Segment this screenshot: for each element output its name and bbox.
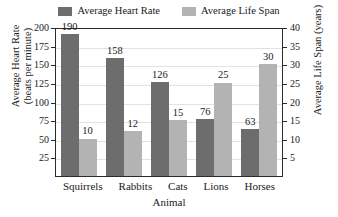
y-axis-left-tick-label: 100 (34, 98, 49, 108)
legend-label-heart-rate: Average Heart Rate (77, 6, 160, 17)
x-axis-category-label: Rabbits (119, 180, 153, 192)
y-axis-right-tick (283, 28, 287, 29)
legend-label-life-span: Average Life Span (201, 6, 280, 17)
bar-group: 19010 (61, 29, 97, 176)
bar-value-label: 10 (82, 126, 93, 139)
bar-life-span: 15 (169, 120, 187, 176)
y-axis-left-tick-label: 50 (39, 135, 49, 145)
y-axis-right-tick-label: 15 (290, 116, 300, 126)
y-axis-right-tick-label: 35 (290, 42, 300, 52)
y-axis-right-tick-label: 40 (290, 23, 300, 33)
y-axis-right-tick-label: 10 (290, 135, 300, 145)
bar-life-span: 12 (124, 131, 142, 176)
y-axis-right-tick (283, 84, 287, 85)
bar-group: 7625 (196, 29, 232, 176)
bar-heart-rate: 158 (106, 58, 124, 176)
bar-value-label: 25 (218, 70, 229, 83)
bar-life-span: 25 (214, 83, 232, 176)
y-axis-left-tick-label: 25 (39, 153, 49, 163)
bar-group: 6330 (241, 29, 277, 176)
bar-heart-rate: 63 (241, 129, 259, 176)
bar-value-label: 30 (263, 52, 274, 65)
x-axis-category-labels: SquirrelsRabbitsCatsLionsHorses (55, 180, 283, 192)
bar-value-label: 15 (173, 108, 184, 121)
bar-value-label: 63 (245, 117, 256, 130)
bar-value-label: 76 (200, 107, 211, 120)
x-axis-category-label: Cats (168, 180, 188, 192)
y-axis-right-tick (283, 65, 287, 66)
bar-heart-rate: 190 (61, 34, 79, 176)
x-axis-category-label: Squirrels (63, 180, 103, 192)
bar-life-span: 10 (79, 139, 97, 176)
legend-item-life-span: Average Life Span (182, 6, 280, 17)
y-axis-left-title-line1: Average Heart Rate (10, 0, 22, 141)
legend-swatch-heart-rate (58, 7, 72, 16)
y-axis-right-tick (283, 121, 287, 122)
bar-value-label: 12 (128, 119, 139, 132)
y-axis-right-title: Average Life Span (years) (312, 0, 324, 135)
y-axis-right-tick-label: 30 (290, 60, 300, 70)
y-axis-right-tick (283, 47, 287, 48)
bar-value-label: 158 (107, 46, 123, 59)
y-axis-left-tick-label: 150 (34, 60, 49, 70)
y-axis-right-tick-label: 25 (290, 79, 300, 89)
bar-life-span: 30 (259, 64, 277, 176)
y-axis-left-tick-label: 75 (39, 116, 49, 126)
plot-area: 19010158121261576256330 (55, 28, 283, 177)
bars-container: 19010158121261576256330 (56, 29, 282, 176)
bar-value-label: 190 (62, 22, 78, 35)
legend-swatch-life-span (182, 7, 196, 16)
y-axis-left-title-line2: (beats per minute) (22, 0, 34, 141)
y-axis-right-tick-label: 5 (290, 153, 295, 163)
y-axis-left-title: Average Heart Rate (beats per minute) (10, 0, 34, 141)
legend-item-heart-rate: Average Heart Rate (58, 6, 160, 17)
x-axis-title: Animal (55, 196, 283, 208)
bar-group: 12615 (151, 29, 187, 176)
bar-group: 15812 (106, 29, 142, 176)
chart-legend: Average Heart Rate Average Life Span (0, 2, 338, 20)
y-axis-right-tick (283, 140, 287, 141)
y-axis-left-tick-label: 125 (34, 79, 49, 89)
bar-heart-rate: 76 (196, 119, 214, 176)
y-axis-left-tick-label: 175 (34, 42, 49, 52)
bar-chart: Average Heart Rate Average Life Span Ave… (0, 0, 338, 217)
y-axis-right-tick (283, 158, 287, 159)
y-axis-left-tick-label: 200 (34, 23, 49, 33)
y-axis-right-tick (283, 103, 287, 104)
bar-heart-rate: 126 (151, 82, 169, 176)
x-axis-category-label: Horses (244, 180, 275, 192)
bar-value-label: 126 (152, 70, 168, 83)
y-axis-right-tick-label: 20 (290, 98, 300, 108)
x-axis-category-label: Lions (204, 180, 229, 192)
